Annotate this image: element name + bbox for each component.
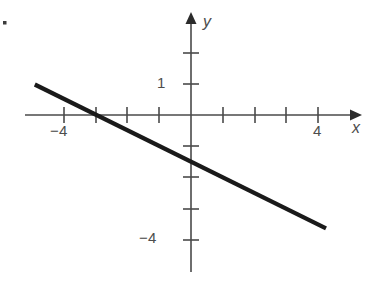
x-axis-name-label: x xyxy=(352,119,360,137)
y-axis-tick-label-1: 1 xyxy=(157,74,166,91)
bullet-dot-icon xyxy=(3,21,7,25)
y-axis-tick-label--4: −4 xyxy=(139,229,157,246)
y-axis-group xyxy=(183,12,199,272)
x-axis-group xyxy=(25,107,362,123)
y-axis-arrow-icon xyxy=(186,12,197,24)
graph-figure: −4 4 1 −4 x y xyxy=(0,0,376,285)
linear-function-line xyxy=(35,85,326,229)
x-axis-tick-label--4: −4 xyxy=(50,122,68,139)
y-axis-name-label: y xyxy=(203,13,211,31)
coordinate-plane-svg xyxy=(0,0,376,285)
x-axis-tick-label-4: 4 xyxy=(313,122,322,139)
